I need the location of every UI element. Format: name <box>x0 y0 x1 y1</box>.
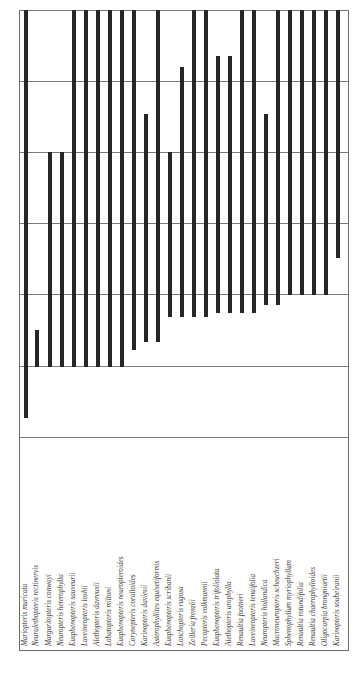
range-bar <box>252 10 256 313</box>
range-bar <box>84 10 88 367</box>
range-bar <box>96 10 100 367</box>
range-bar <box>180 67 184 317</box>
stratigraphic-range-chart: Mariopteris muricataNeuralethopteris rec… <box>0 0 360 685</box>
species-label: Renaultia rotundifolia <box>298 582 305 646</box>
range-bar <box>72 10 76 367</box>
grid-line <box>19 437 349 438</box>
species-label: Karinopteris daviesii <box>142 585 149 646</box>
species-label: Asterophyllites equisetiformis <box>154 561 161 646</box>
species-label: Eusphenopteris trifoliolata <box>214 568 221 646</box>
range-bar <box>324 10 328 295</box>
species-label: Eusphenopteris scribanii <box>166 574 173 646</box>
species-label: Pecopteris volkmannii <box>202 582 209 646</box>
range-bar <box>144 114 148 342</box>
range-bar <box>300 10 304 295</box>
range-bar <box>240 10 244 313</box>
range-bar <box>276 10 280 305</box>
range-bar <box>312 10 316 295</box>
range-bar <box>228 56 232 313</box>
range-bar <box>132 10 136 350</box>
species-label: Zeilleria frenzlii <box>190 599 197 646</box>
species-label: Renaultia chaerophylloides <box>310 567 317 646</box>
range-bar <box>264 114 268 305</box>
range-bar <box>120 10 124 367</box>
species-label: Karinopteris soubeiranii <box>334 575 341 646</box>
species-label: Lonchopteris rugosa <box>178 586 185 646</box>
range-bar <box>216 56 220 313</box>
species-label: Alethopteris urophylla <box>226 581 233 646</box>
species-label: Eusphenopteris sauveurii <box>70 573 77 646</box>
range-bar <box>288 10 292 295</box>
grid-line <box>19 366 349 367</box>
range-bar <box>24 10 28 418</box>
range-bar <box>156 10 160 342</box>
species-label: Mariopteris muricata <box>22 584 29 646</box>
range-bar <box>336 10 340 258</box>
range-bar <box>108 10 112 367</box>
species-label: Margaritopteris conwayi <box>46 574 53 646</box>
range-bar <box>60 152 64 367</box>
species-label: Laveineopteris loshii <box>82 586 89 647</box>
species-label: Neuralethopteris rectinervis <box>33 565 40 646</box>
species-label: Laveineopteris tenuifolia <box>250 574 257 646</box>
species-label: Renaultia footneri <box>238 593 245 646</box>
species-label: Sphenophyllum myriophyllum <box>286 560 293 646</box>
range-bar <box>204 10 208 317</box>
range-bar <box>168 152 172 317</box>
species-label: Lobatopteris miltoni <box>106 587 113 646</box>
species-label: Oligocarpia brongniartii <box>322 574 329 646</box>
range-bar <box>35 330 39 367</box>
species-label: Eusphenopteris neuropteroides <box>118 557 125 647</box>
range-bar <box>48 152 52 367</box>
range-bar <box>192 10 196 317</box>
species-label: Alethopteris davreuxii <box>94 582 101 646</box>
species-label: Corynepteris coralloides <box>130 574 137 646</box>
species-label: Neuropteris hollandica <box>262 579 269 646</box>
species-label: Macroneuropteris scheuchzeri <box>274 559 281 647</box>
species-label: Neuropteris heterophylla <box>58 574 65 646</box>
